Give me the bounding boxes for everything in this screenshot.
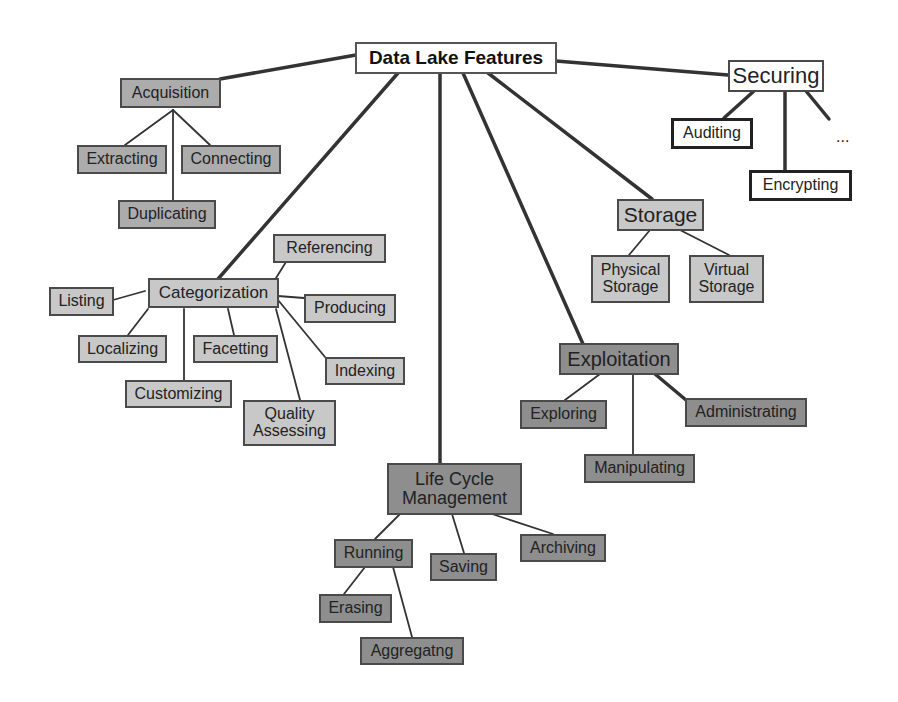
node-encrypting-label: Encrypting <box>763 177 839 194</box>
more-items-ellipsis: ... <box>836 128 849 146</box>
node-customizing-label: Customizing <box>134 386 222 403</box>
node-exploitation: Exploitation <box>559 343 679 375</box>
node-customizing: Customizing <box>125 380 232 408</box>
node-erasing-label: Erasing <box>328 600 382 617</box>
node-storage: Storage <box>617 199 704 231</box>
node-referencing-label: Referencing <box>286 240 372 257</box>
node-auditing: Auditing <box>671 118 753 149</box>
node-producing-label: Producing <box>314 300 386 317</box>
node-encrypting: Encrypting <box>749 170 852 201</box>
node-exploring-label: Exploring <box>530 406 597 423</box>
node-saving: Saving <box>430 553 497 581</box>
node-facetting-label: Facetting <box>203 341 269 358</box>
node-quality-assessing-label: Quality Assessing <box>253 406 326 440</box>
node-referencing: Referencing <box>273 234 386 263</box>
node-physical-storage: Physical Storage <box>591 255 670 303</box>
node-life-cycle-management: Life Cycle Management <box>387 463 522 515</box>
node-duplicating: Duplicating <box>118 200 216 229</box>
node-aggregating-label: Aggregatng <box>371 643 454 660</box>
node-connecting-label: Connecting <box>191 151 272 168</box>
node-localizing-label: Localizing <box>87 341 158 358</box>
node-virtual-storage-label: Virtual Storage <box>698 262 754 296</box>
node-listing: Listing <box>49 287 114 316</box>
node-indexing: Indexing <box>325 357 405 385</box>
node-acquisition-label: Acquisition <box>132 85 209 102</box>
node-quality-assessing: Quality Assessing <box>243 400 336 446</box>
node-archiving: Archiving <box>520 534 606 562</box>
node-running: Running <box>334 539 413 568</box>
node-exploitation-label: Exploitation <box>567 349 670 370</box>
node-erasing: Erasing <box>319 594 392 623</box>
node-auditing-label: Auditing <box>683 125 741 142</box>
node-securing-label: Securing <box>733 64 820 87</box>
node-categorization: Categorization <box>148 278 279 308</box>
node-running-label: Running <box>344 545 404 562</box>
node-exploring: Exploring <box>520 400 607 429</box>
node-manipulating-label: Manipulating <box>594 460 685 477</box>
node-localizing: Localizing <box>78 335 167 363</box>
node-physical-storage-label: Physical Storage <box>601 262 661 296</box>
node-archiving-label: Archiving <box>530 540 596 557</box>
node-virtual-storage: Virtual Storage <box>689 255 764 303</box>
node-administrating-label: Administrating <box>695 404 796 421</box>
node-storage-label: Storage <box>624 204 698 226</box>
node-manipulating: Manipulating <box>584 454 695 483</box>
data-lake-features-diagram: Data Lake Features Securing Auditing Enc… <box>0 0 898 702</box>
node-categorization-label: Categorization <box>159 284 269 302</box>
root-node-data-lake-features: Data Lake Features <box>355 42 557 74</box>
node-indexing-label: Indexing <box>335 363 396 380</box>
node-extracting: Extracting <box>77 145 167 174</box>
node-acquisition: Acquisition <box>120 78 221 108</box>
node-saving-label: Saving <box>439 559 488 576</box>
node-life-cycle-management-label: Life Cycle Management <box>402 470 507 508</box>
node-producing: Producing <box>304 294 396 323</box>
node-extracting-label: Extracting <box>86 151 157 168</box>
root-label: Data Lake Features <box>369 48 543 68</box>
node-listing-label: Listing <box>58 293 104 310</box>
node-aggregating: Aggregatng <box>360 637 464 665</box>
node-securing: Securing <box>728 60 824 92</box>
node-facetting: Facetting <box>193 335 278 363</box>
node-administrating: Administrating <box>685 398 807 427</box>
node-connecting: Connecting <box>181 145 281 174</box>
node-duplicating-label: Duplicating <box>127 206 206 223</box>
